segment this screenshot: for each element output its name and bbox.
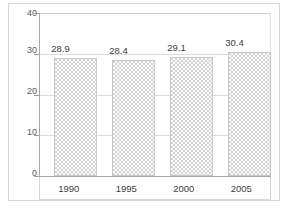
x-tick-label-2005: 2005	[213, 177, 271, 199]
bar-value-label-2000: 29.1	[149, 42, 204, 53]
bar-1995[interactable]	[112, 60, 155, 176]
bar-1990[interactable]	[54, 58, 97, 176]
x-tick-label-1995: 1995	[98, 177, 156, 199]
bar-value-label-2005: 30.4	[207, 37, 262, 48]
y-axis-line	[39, 13, 40, 176]
bar-value-label-1995: 28.4	[91, 45, 146, 56]
bar-2000[interactable]	[170, 57, 213, 176]
x-tick-label-1990: 1990	[40, 177, 98, 199]
bar-chart-figure: 40 30 20 10 0 28.9 28.4 29.1 30.4 1990 1…	[0, 0, 289, 208]
x-tick-label-2000: 2000	[155, 177, 213, 199]
bar-2005[interactable]	[228, 52, 271, 176]
bar-value-label-1990: 28.9	[33, 43, 88, 54]
x-axis-label-row: 1990 1995 2000 2005	[39, 177, 271, 200]
